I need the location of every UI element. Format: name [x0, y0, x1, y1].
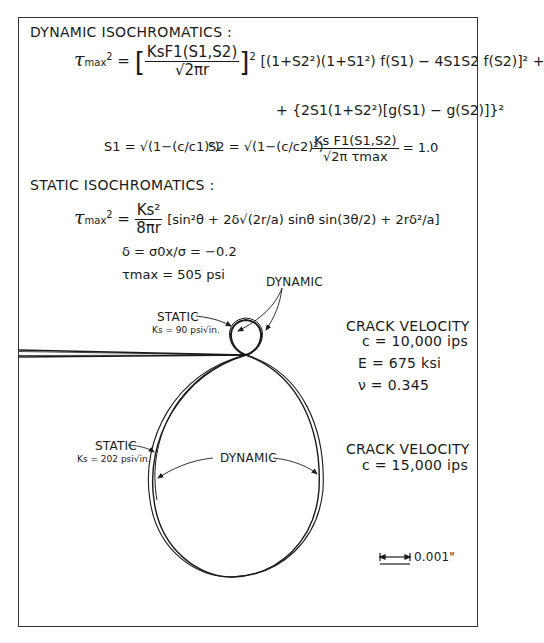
ks-small: Ks = 90 psi√in.: [152, 326, 220, 335]
case2-velocity: c = 15,000 ips: [362, 458, 468, 472]
crack-lines: [19, 350, 246, 357]
case1-modulus: E = 675 ksi: [358, 356, 441, 370]
ks-large: Ks = 202 psi√in.: [77, 455, 151, 464]
label-dynamic-large: DYNAMIC: [220, 452, 277, 464]
label-static-small: STATIC: [157, 311, 199, 323]
case2-title: CRACK VELOCITY: [346, 442, 470, 456]
label-static-large: STATIC: [95, 440, 137, 452]
case1-poisson: ν = 0.345: [358, 378, 429, 392]
case1-velocity: c = 10,000 ips: [362, 334, 468, 348]
scale-bar: [380, 553, 410, 564]
case1-title: CRACK VELOCITY: [346, 319, 470, 333]
large-isochromatic-loop: [148, 355, 323, 577]
scale-bar-label: 0.001": [414, 551, 455, 563]
small-isochromatic-loop: [229, 318, 262, 355]
label-dynamic-small: DYNAMIC: [266, 276, 323, 288]
